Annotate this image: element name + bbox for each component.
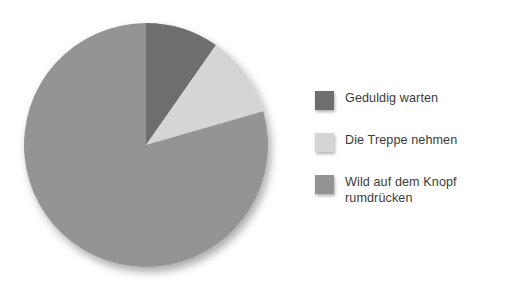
legend-item-label: Wild auf dem Knopf rumdrücken bbox=[345, 172, 457, 206]
legend-item-label: Die Treppe nehmen bbox=[345, 130, 457, 148]
chart-legend: Geduldig warten Die Treppe nehmen Wild a… bbox=[315, 88, 505, 206]
legend-item[interactable]: Wild auf dem Knopf rumdrücken bbox=[315, 172, 505, 206]
legend-item-label: Geduldig warten bbox=[345, 88, 438, 106]
legend-swatch-icon bbox=[315, 91, 334, 110]
pie-svg bbox=[24, 23, 268, 267]
pie-slices-group bbox=[24, 23, 268, 267]
legend-swatch-icon bbox=[315, 133, 334, 152]
legend-swatch-icon bbox=[315, 175, 334, 194]
pie-chart-figure: Geduldig warten Die Treppe nehmen Wild a… bbox=[0, 0, 516, 295]
pie-chart-graphic bbox=[24, 23, 268, 267]
legend-item[interactable]: Die Treppe nehmen bbox=[315, 130, 505, 152]
legend-item[interactable]: Geduldig warten bbox=[315, 88, 505, 110]
